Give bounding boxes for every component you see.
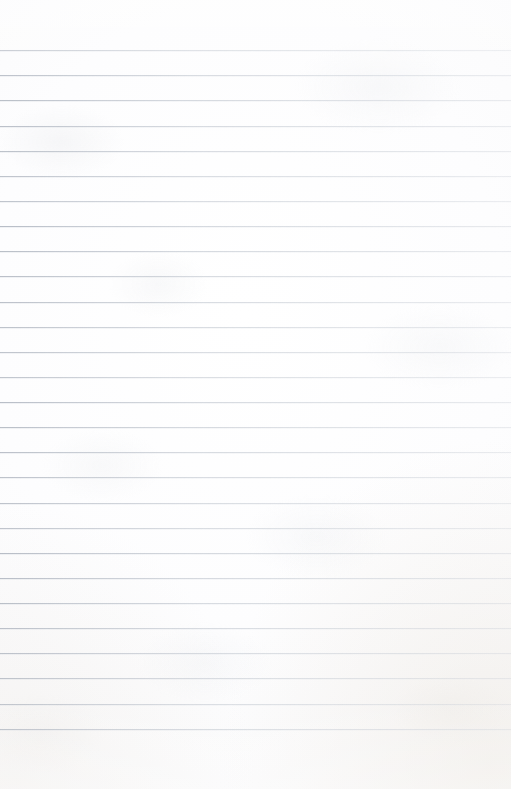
ruled-line [0,477,511,478]
ruled-line [0,452,511,453]
ruled-line [0,302,511,303]
ruled-line [0,251,511,252]
ruled-line [0,704,511,705]
ruled-line [0,653,511,654]
ruled-line [0,427,511,428]
ruled-line [0,75,511,76]
ruled-line [0,201,511,202]
ruled-line [0,327,511,328]
ruled-line [0,578,511,579]
ruled-line [0,126,511,127]
ruled-line [0,402,511,403]
ruled-line [0,729,511,730]
ruled-line [0,377,511,378]
ruled-line [0,352,511,353]
ruled-line [0,226,511,227]
ruled-line [0,276,511,277]
ruled-line [0,50,511,51]
ruled-line [0,151,511,152]
ruled-lines-group [0,0,511,789]
ruled-line [0,678,511,679]
ruled-line [0,503,511,504]
ruled-line [0,553,511,554]
ruled-line [0,176,511,177]
ruled-line [0,100,511,101]
ruled-line [0,628,511,629]
ruled-line [0,528,511,529]
lined-paper-page [0,0,511,789]
ruled-line [0,603,511,604]
